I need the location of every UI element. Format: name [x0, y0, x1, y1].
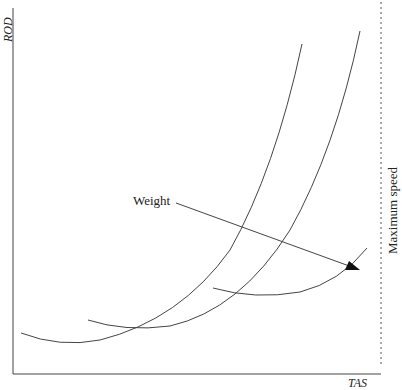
weight-arrow-head [345, 261, 360, 270]
y-axis-label: ROD [1, 17, 16, 42]
diagram-canvas [0, 0, 402, 390]
x-axis-label: TAS [348, 376, 367, 390]
maximum-speed-label: Maximum speed [385, 167, 401, 254]
weight-label: Weight [133, 193, 170, 209]
weight-arrow-shaft [176, 203, 352, 267]
curve-high-weight [213, 248, 367, 295]
curve-mid-weight [88, 31, 360, 328]
